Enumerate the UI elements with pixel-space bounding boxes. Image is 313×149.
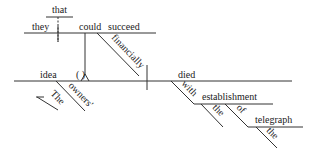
appositive-parens: ( ) [76, 69, 85, 81]
word-establishment: establishment [202, 91, 257, 102]
diagram-canvas: that they could succeed financially ( ) … [0, 0, 313, 149]
sentence-diagram: that they could succeed financially ( ) … [0, 0, 313, 149]
word-owners: owners' [67, 80, 96, 110]
word-succeed: succeed [108, 21, 140, 32]
word-could: could [79, 21, 101, 32]
word-they: they [32, 21, 49, 32]
word-telegraph: telegraph [255, 114, 292, 125]
word-that: that [52, 4, 67, 15]
word-idea: idea [40, 69, 57, 80]
